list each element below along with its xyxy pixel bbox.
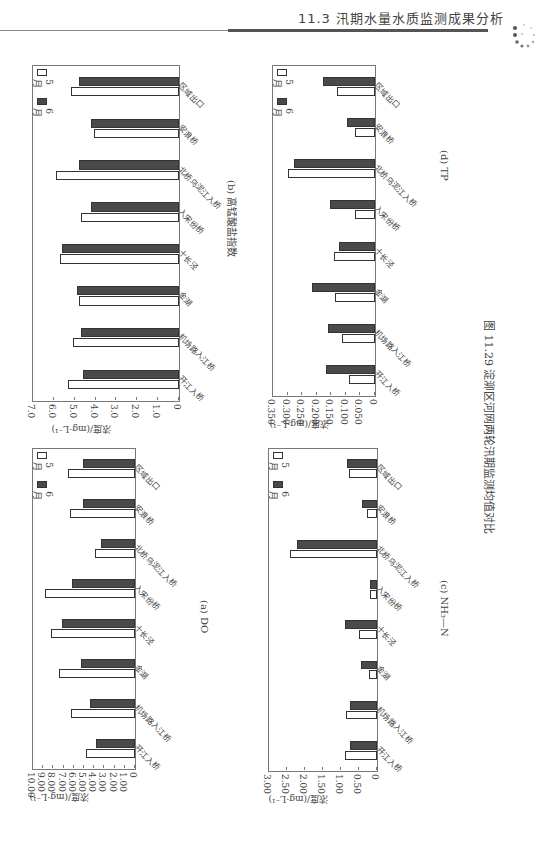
axis-tick-label: 1.0: [151, 404, 161, 418]
bar-june: [362, 500, 377, 509]
chart-legend: 5 月6 月: [271, 69, 294, 120]
category-label: 区域出口: [374, 462, 404, 492]
bar-june: [297, 540, 377, 549]
bar-may: [73, 338, 179, 347]
bar-june: [62, 244, 179, 253]
axis-tick-label: 7.0: [26, 404, 36, 418]
axis-tick-mark: [103, 765, 104, 768]
axis-tick-label: 3.00: [97, 772, 107, 792]
plot-area: [32, 65, 180, 402]
bar-may: [70, 509, 135, 518]
bar-june: [347, 459, 377, 468]
axis-tick-label: 8.00: [46, 772, 56, 792]
axis-tick-mark: [114, 765, 115, 768]
legend-swatch-may: [278, 69, 288, 76]
bar-may: [346, 711, 377, 720]
legend-swatch-may: [38, 69, 48, 76]
bar-june: [72, 579, 135, 588]
axis-tick-label: 0.50: [352, 774, 362, 794]
bar-june: [83, 370, 179, 379]
chart-subcaption: (d) TP: [439, 150, 450, 181]
bar-may: [288, 169, 375, 178]
axis-tick-mark: [376, 767, 377, 770]
axis-tick-mark: [287, 392, 288, 395]
category-label: 区域出口: [176, 80, 206, 110]
legend-swatch-june: [38, 98, 48, 105]
axis-tick-mark: [340, 767, 341, 770]
category-label: 开江入桥: [176, 373, 206, 403]
bar-may: [59, 669, 136, 678]
axis-tick-label: 6.00: [67, 772, 77, 792]
axis-tick-label: 2.0: [130, 404, 140, 418]
axis-tick-label: 2.00: [298, 774, 308, 794]
axis-tick-label: 5.00: [77, 772, 87, 792]
axis-tick-mark: [316, 392, 317, 395]
bar-june: [81, 328, 179, 337]
axis-tick-label: 0.050: [353, 399, 363, 425]
bar-june: [79, 77, 179, 86]
figure-caption: 图 11.29 淀泖区河网两轮汛期监测均值对比: [482, 320, 498, 534]
section-title: 11.3 汛期水量水质监测成果分析: [298, 8, 504, 27]
category-label: 开江入桥: [372, 368, 402, 398]
axis-tick-mark: [286, 767, 287, 770]
bar-june: [101, 539, 135, 548]
bar-june: [323, 77, 375, 86]
axis-tick-label: 3.00: [262, 774, 272, 794]
axis-label: 浓度/(mg·L⁻¹): [29, 791, 89, 804]
bar-may: [79, 296, 179, 305]
axis-tick-mark: [42, 765, 43, 768]
decorative-dots-icon: [510, 22, 538, 50]
bar-may: [81, 213, 179, 222]
legend-label-may: 5 月: [31, 79, 54, 91]
legend-swatch-june: [38, 481, 48, 488]
category-label: 区域出口: [132, 462, 162, 492]
bar-may: [334, 252, 375, 261]
axis-tick-label: 0: [172, 404, 182, 410]
bar-june: [350, 741, 377, 750]
axis-tick-mark: [53, 397, 54, 400]
axis-tick-mark: [74, 397, 75, 400]
bar-june: [339, 242, 375, 251]
category-label: 区域出口: [372, 80, 402, 110]
axis-label: 浓度/(mg·L⁻¹): [268, 793, 328, 806]
bar-may: [71, 709, 135, 718]
axis-tick-mark: [83, 765, 84, 768]
legend-label-may: 5 月: [267, 462, 290, 474]
category-label: 入宋份桥: [372, 203, 402, 233]
axis-tick-mark: [136, 397, 137, 400]
header-rule-dark: [228, 29, 488, 32]
bar-may: [345, 751, 377, 760]
bar-may: [51, 629, 135, 638]
category-label: 入宋份桥: [132, 582, 162, 612]
bar-may: [95, 549, 135, 558]
axis-tick-label: 4.0: [89, 404, 99, 418]
bar-june: [77, 286, 179, 295]
bar-may: [335, 293, 375, 302]
bar-june: [294, 159, 375, 168]
category-label: 机场路入江桥: [372, 327, 414, 369]
bar-june: [81, 659, 135, 668]
axis-tick-mark: [157, 397, 158, 400]
axis-tick-label: 3.0: [109, 404, 119, 418]
category-label: 机场路入江桥: [132, 702, 174, 744]
axis-tick-label: 4.00: [87, 772, 97, 792]
axis-tick-mark: [374, 392, 375, 395]
bar-june: [79, 160, 179, 169]
axis-tick-mark: [63, 765, 64, 768]
axis-tick-mark: [124, 765, 125, 768]
axis-tick-label: 9.00: [36, 772, 46, 792]
bar-may: [68, 469, 135, 478]
bar-may: [68, 380, 179, 389]
bar-june: [62, 619, 135, 628]
category-label: 入宋份桥: [374, 583, 404, 613]
bar-june: [361, 661, 377, 670]
legend-label-june: 6 月: [31, 491, 54, 503]
axis-tick-mark: [32, 397, 33, 400]
axis-tick-label: 7.00: [57, 772, 67, 792]
axis-tick-label: 0: [368, 399, 378, 405]
category-label: 入宋份桥: [176, 206, 206, 236]
axis-tick-mark: [134, 765, 135, 768]
bar-june: [326, 365, 375, 374]
axis-tick-mark: [268, 767, 269, 770]
bar-june: [330, 200, 375, 209]
